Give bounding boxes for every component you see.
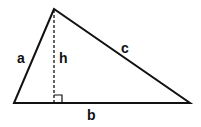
label-side-c: c [121, 40, 129, 56]
triangle [14, 9, 190, 103]
label-side-a: a [17, 50, 25, 66]
label-height-h: h [59, 50, 68, 66]
label-side-b: b [87, 107, 96, 123]
triangle-diagram: a h c b [0, 0, 201, 127]
right-angle-marker [54, 95, 62, 103]
